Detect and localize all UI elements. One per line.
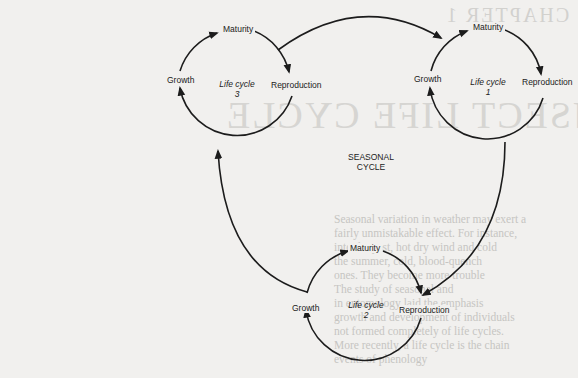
cycle1-reproduction-label: Reproduction bbox=[522, 77, 573, 87]
seasonal-cycle-diagram bbox=[0, 0, 578, 378]
cycle3-number: 3 bbox=[215, 89, 259, 99]
cycle3-title-text: Life cycle bbox=[215, 79, 259, 89]
cycle3-reproduction-label: Reproduction bbox=[271, 80, 322, 90]
cycle1-title: Life cycle 1 bbox=[466, 77, 510, 97]
arrow-cycle1-to-cycle2 bbox=[423, 142, 505, 295]
cycle3-maturity-label: Maturity bbox=[221, 24, 255, 34]
book-page: CHAPTER 1 THE INSECT LIFE CYCLE Seasonal… bbox=[0, 0, 578, 378]
cycle1-maturity-label: Maturity bbox=[471, 22, 505, 32]
cycle2-title-text: Life cycle bbox=[344, 300, 388, 310]
seasonal-label-line1: SEASONAL bbox=[336, 152, 406, 162]
cycle1-number: 1 bbox=[466, 87, 510, 97]
cycle2-number: 2 bbox=[344, 310, 388, 320]
cycle2-reproduction-label: Reproduction bbox=[399, 305, 450, 315]
cycle2-growth-label: Growth bbox=[292, 303, 319, 313]
seasonal-label-line2: CYCLE bbox=[336, 162, 406, 172]
cycle3-growth-label: Growth bbox=[167, 75, 194, 85]
cycle1-growth-label: Growth bbox=[414, 74, 441, 84]
arrow-cycle2-to-cycle3 bbox=[218, 151, 307, 292]
seasonal-cycle-label: SEASONAL CYCLE bbox=[336, 152, 406, 172]
arrow-cycle3-to-cycle1 bbox=[278, 17, 441, 50]
cycle1-title-text: Life cycle bbox=[466, 77, 510, 87]
cycle2-maturity-label: Maturity bbox=[348, 243, 382, 253]
cycle3-title: Life cycle 3 bbox=[215, 79, 259, 99]
cycle2-title: Life cycle 2 bbox=[344, 300, 388, 320]
